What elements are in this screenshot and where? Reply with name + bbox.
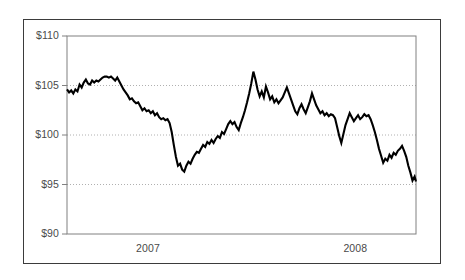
- price-series-line: [67, 72, 416, 182]
- gridlines: [67, 86, 416, 185]
- x-axis-label-2007: 2007: [118, 242, 178, 254]
- x-axis-label-2008: 2008: [325, 242, 385, 254]
- y-axis-label-100: $100: [19, 128, 59, 140]
- y-axis-label-105: $105: [19, 79, 59, 91]
- y-axis-label-90: $90: [19, 227, 59, 239]
- y-axis-label-110: $110: [19, 29, 59, 41]
- price-line: [67, 72, 416, 182]
- y-axis-label-95: $95: [19, 178, 59, 190]
- chart-figure: $90$95$100$105$11020072008: [0, 0, 465, 280]
- line-chart-canvas: [0, 0, 465, 280]
